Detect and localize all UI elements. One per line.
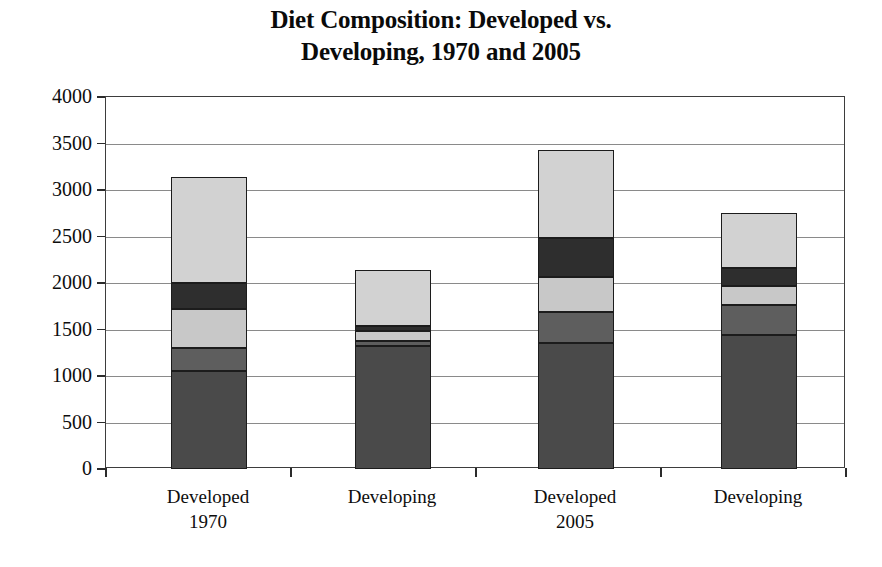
y-axis-tick-label: 4000 xyxy=(8,86,92,106)
bar-segment[interactable] xyxy=(355,270,431,327)
chart-title: Diet Composition: Developed vs. Developi… xyxy=(0,4,882,68)
x-axis-category-label: Developed1970 xyxy=(118,484,298,534)
y-axis-tick-label: 1000 xyxy=(8,365,92,385)
x-axis-year-label: 1970 xyxy=(118,509,298,534)
bar-segment[interactable] xyxy=(721,213,797,268)
y-axis-tick-label: 3500 xyxy=(8,133,92,153)
x-axis-category-name: Developing xyxy=(668,484,848,509)
x-axis-year-label: 2005 xyxy=(485,509,665,534)
bar-segment[interactable] xyxy=(721,335,797,469)
bar-segment[interactable] xyxy=(355,341,431,346)
bar-stack[interactable] xyxy=(355,97,431,469)
chart-title-line-1: Diet Composition: Developed vs. xyxy=(0,4,882,36)
x-axis-tick-mark xyxy=(105,468,107,477)
x-axis-tick-mark xyxy=(845,468,847,477)
y-axis-tick-label: 1500 xyxy=(8,319,92,339)
bar-stack[interactable] xyxy=(171,97,247,469)
x-axis-category-name: Developed xyxy=(485,484,665,509)
x-axis-tick-mark xyxy=(660,468,662,477)
bar-segment[interactable] xyxy=(721,268,797,286)
x-axis-category-label: Developing xyxy=(668,484,848,509)
bar-segment[interactable] xyxy=(355,331,431,341)
bar-stack[interactable] xyxy=(721,97,797,469)
y-axis-tick-label: 2000 xyxy=(8,272,92,292)
bar-segment[interactable] xyxy=(171,348,247,371)
bar-segment[interactable] xyxy=(538,343,614,469)
chart-container: Diet Composition: Developed vs. Developi… xyxy=(0,0,882,567)
y-axis-tick-label: 2500 xyxy=(8,226,92,246)
bar-segment[interactable] xyxy=(355,346,431,469)
x-axis-category-label: Developed2005 xyxy=(485,484,665,534)
chart-title-line-2: Developing, 1970 and 2005 xyxy=(0,36,882,68)
bar-segment[interactable] xyxy=(538,312,614,344)
bar-segment[interactable] xyxy=(171,177,247,283)
bar-segment[interactable] xyxy=(171,283,247,309)
x-axis-category-label: Developing xyxy=(302,484,482,509)
bar-segment[interactable] xyxy=(171,371,247,469)
bar-segment[interactable] xyxy=(538,238,614,277)
x-axis-category-name: Developing xyxy=(302,484,482,509)
y-axis-tick-label: 0 xyxy=(8,458,92,478)
y-axis-tick-label: 3000 xyxy=(8,179,92,199)
bar-segment[interactable] xyxy=(355,326,431,331)
x-axis-tick-mark xyxy=(475,468,477,477)
bar-segment[interactable] xyxy=(721,286,797,306)
x-axis-category-name: Developed xyxy=(118,484,298,509)
bar-segment[interactable] xyxy=(171,309,247,348)
x-axis-tick-mark xyxy=(290,468,292,477)
plot-area xyxy=(105,96,845,468)
bar-segment[interactable] xyxy=(721,305,797,335)
bar-segment[interactable] xyxy=(538,277,614,311)
y-axis-tick-label: 500 xyxy=(8,412,92,432)
bar-stack[interactable] xyxy=(538,97,614,469)
bar-segment[interactable] xyxy=(538,150,614,238)
